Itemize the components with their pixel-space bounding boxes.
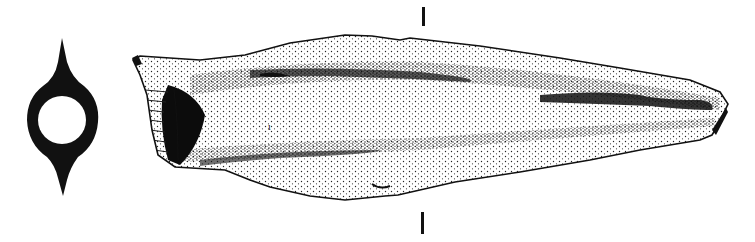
svg-text:ı: ı <box>268 121 271 132</box>
section-mark-bottom <box>421 212 424 234</box>
section-mark-top <box>422 7 425 26</box>
artifact-body: ı <box>120 30 740 210</box>
cross-section-icon <box>27 38 98 196</box>
artifact-illustration: ı <box>0 0 755 242</box>
